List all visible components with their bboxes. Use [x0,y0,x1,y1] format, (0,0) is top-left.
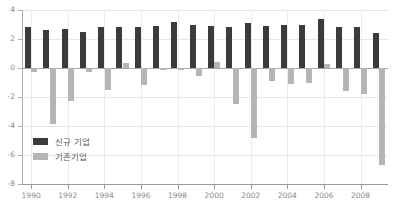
x-tick-mark [324,185,325,189]
bar-existing-company [123,63,129,68]
gridline-horizontal [22,97,388,98]
bar-new-company [80,32,86,68]
y-tick-label: -2 [0,93,15,101]
bar-existing-company [105,68,111,90]
x-tick-label: 1992 [50,191,86,200]
y-tick-mark [18,97,23,98]
y-tick-label: -6 [0,151,15,159]
bar-chart: 420-2-4-6-8 1990199219941996199820002002… [0,0,394,208]
y-tick-mark [18,10,23,11]
x-axis-line [22,184,388,185]
y-tick-mark [18,126,23,127]
x-tick-mark [104,185,105,189]
x-tick-mark [361,185,362,189]
x-tick-label: 1990 [13,191,49,200]
gridline-vertical [287,10,288,184]
x-tick-label: 1994 [86,191,122,200]
bar-existing-company [361,68,367,94]
gridline-vertical [178,10,179,184]
bar-new-company [281,25,287,68]
x-tick-label: 2006 [306,191,342,200]
bar-new-company [299,25,305,69]
x-tick-label: 2008 [343,191,379,200]
gridline-vertical [141,10,142,184]
gridline-vertical [324,10,325,184]
bar-new-company [135,27,141,68]
y-tick-label: 0 [0,64,15,72]
legend-swatch-icon [33,153,48,160]
gridline-horizontal [22,10,388,11]
x-tick-label: 2002 [233,191,269,200]
gridline-horizontal [22,39,388,40]
bar-existing-company [68,68,74,101]
y-tick-mark [18,184,23,185]
legend-item-label: 신규 기업 [55,137,90,147]
legend-item-label: 기존기업 [55,152,87,162]
x-tick-label: 2000 [196,191,232,200]
bar-existing-company [324,64,330,68]
bar-new-company [190,25,196,68]
bar-existing-company [160,68,166,70]
y-tick-label: 2 [0,35,15,43]
bar-existing-company [141,68,147,85]
y-tick-mark [18,68,23,69]
bar-existing-company [269,68,275,81]
bar-existing-company [178,68,184,70]
x-tick-mark [68,185,69,189]
x-tick-label: 1996 [123,191,159,200]
bar-existing-company [233,68,239,104]
bar-new-company [62,29,68,68]
gridline-horizontal [22,126,388,127]
legend-swatch-icon [33,138,48,145]
bar-existing-company [288,68,294,84]
x-tick-mark [251,185,252,189]
bar-existing-company [86,68,92,72]
bar-new-company [153,26,159,68]
gridline-vertical [214,10,215,184]
bar-new-company [373,33,379,68]
gridline-vertical [31,10,32,184]
legend-item-existing: 기존기업 [33,149,90,164]
gridline-vertical [104,10,105,184]
y-tick-label: 4 [0,6,15,14]
legend-item-new: 신규 기업 [33,134,90,149]
x-tick-mark [214,185,215,189]
bar-new-company [25,27,31,68]
x-tick-mark [287,185,288,189]
x-tick-mark [31,185,32,189]
chart-legend: 신규 기업 기존기업 [33,134,90,164]
bar-existing-company [196,68,202,76]
bar-existing-company [50,68,56,124]
bar-existing-company [251,68,257,138]
zero-line [22,68,388,69]
y-tick-mark [18,155,23,156]
bar-new-company [98,27,104,68]
bar-new-company [336,27,342,68]
x-tick-mark [178,185,179,189]
bar-existing-company [31,68,37,72]
gridline-vertical [361,10,362,184]
bar-new-company [263,26,269,68]
x-tick-label: 2004 [269,191,305,200]
bar-new-company [43,30,49,68]
bar-new-company [245,23,251,68]
y-tick-mark [18,39,23,40]
x-tick-label: 1998 [160,191,196,200]
bar-new-company [318,19,324,68]
x-tick-mark [141,185,142,189]
y-tick-label: -8 [0,180,15,188]
bar-new-company [208,26,214,68]
bar-existing-company [379,68,385,165]
bar-new-company [226,27,232,68]
bar-existing-company [214,62,220,68]
bar-existing-company [306,68,312,83]
bar-new-company [354,27,360,68]
bar-new-company [116,27,122,68]
y-tick-label: -4 [0,122,15,130]
bar-existing-company [343,68,349,91]
bar-new-company [171,22,177,68]
